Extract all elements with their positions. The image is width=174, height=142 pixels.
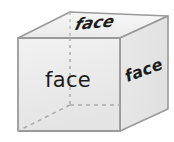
cube-faces-diagram: face face face bbox=[0, 0, 174, 142]
front-face-label: face bbox=[45, 68, 91, 92]
cube-drawing: face face face bbox=[0, 0, 174, 142]
top-face-label: face bbox=[73, 12, 117, 34]
